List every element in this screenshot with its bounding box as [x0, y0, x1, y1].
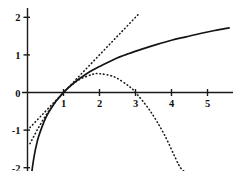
x-tick-label: 1 [61, 98, 66, 109]
y-tick-label: -1 [12, 125, 21, 136]
y-tick-label: 2 [15, 12, 20, 23]
x-tick-label: 3 [133, 98, 138, 109]
x-tick-label: 4 [169, 98, 175, 109]
y-tick-label: 0 [15, 88, 20, 99]
taylor-approximation-plot: 12345 210-1-2 [0, 0, 233, 171]
y-tick-labels: 210-1-2 [12, 12, 21, 171]
x-tick-label: 2 [97, 98, 102, 109]
y-tick-label: 1 [15, 50, 20, 61]
curve-taylor-1 [30, 14, 139, 128]
curve-taylor-2 [30, 73, 184, 171]
figure-container: 12345 210-1-2 [0, 0, 233, 171]
y-tick-label: -2 [12, 163, 21, 171]
x-tick-label: 5 [205, 98, 210, 109]
x-tick-labels: 12345 [61, 98, 210, 109]
